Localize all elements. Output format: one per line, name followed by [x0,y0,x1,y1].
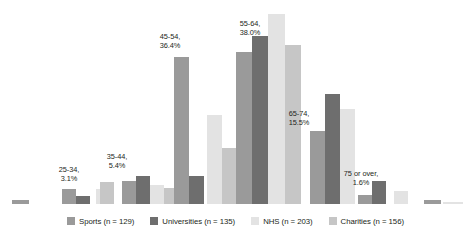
bar-55-64-sports[interactable] [236,52,252,204]
data-label-55-64-line2: 38.0% [240,28,261,37]
bar-75-or-over-nhs[interactable] [394,191,408,204]
legend-label-universities: Universities (n = 135) [162,217,235,226]
bar-35-44-charities-prev[interactable] [100,182,114,204]
legend-swatch-nhs-icon [251,217,259,225]
bar-35-44-nhs[interactable] [150,185,164,204]
bar-group-35-44 [100,0,172,204]
bar-trailing-charities[interactable] [443,202,463,204]
data-label-65-74: 65-74, 15.5% [272,110,326,127]
data-label-55-64: 55-64, 38.0% [223,20,277,37]
legend-label-charities: Charities (n = 156) [341,217,404,226]
data-label-45-54-line2: 36.4% [160,41,181,50]
legend-item-sports[interactable]: Sports (n = 129) [67,217,134,226]
bar-75-or-over-sports[interactable] [358,195,372,204]
legend-swatch-universities-icon [150,217,158,225]
bar-65-74-universities[interactable] [325,94,340,204]
bar-trailing-sports[interactable] [424,200,441,204]
data-label-45-54: 45-54, 36.4% [143,33,197,50]
bar-55-64-universities[interactable] [252,36,268,204]
data-label-75-or-over-line2: 1.6% [353,178,370,187]
plot-area: 25-34, 3.1% 35-44, 5.4% 45-54, 36.4% 55-… [0,0,471,204]
data-label-65-74-line2: 15.5% [289,118,310,127]
bar-45-54-nhs[interactable] [207,115,222,204]
legend: Sports (n = 129) Universities (n = 135) … [0,211,471,231]
bar-35-44-universities[interactable] [136,176,150,204]
bar-45-54-sports[interactable] [174,57,189,204]
legend-swatch-charities-icon [329,217,337,225]
bar-chart: 25-34, 3.1% 35-44, 5.4% 45-54, 36.4% 55-… [0,0,471,239]
bar-25-34-sports[interactable] [62,189,76,204]
legend-item-nhs[interactable]: NHS (n = 203) [251,217,312,226]
data-label-25-34-line2: 3.1% [61,174,78,183]
legend-label-nhs: NHS (n = 203) [263,217,312,226]
legend-item-universities[interactable]: Universities (n = 135) [150,217,235,226]
bar-65-74-sports[interactable] [310,131,325,204]
bar-45-54-universities[interactable] [189,176,204,204]
bar-35-44-sports[interactable] [122,181,136,204]
data-label-75-or-over: 75 or over, 1.6% [330,170,392,187]
bar-65-74-nhs[interactable] [340,109,355,204]
bar-under-25-sports[interactable] [12,200,29,204]
data-label-35-44-line2: 5.4% [109,161,126,170]
data-label-35-44: 35-44, 5.4% [90,153,144,170]
bar-group-trailing [424,0,468,204]
data-label-25-34: 25-34, 3.1% [42,166,96,183]
legend-swatch-sports-icon [67,217,75,225]
legend-label-sports: Sports (n = 129) [79,217,134,226]
legend-item-charities[interactable]: Charities (n = 156) [329,217,404,226]
bar-25-34-universities[interactable] [76,196,90,204]
bar-55-64-nhs[interactable] [268,14,285,204]
